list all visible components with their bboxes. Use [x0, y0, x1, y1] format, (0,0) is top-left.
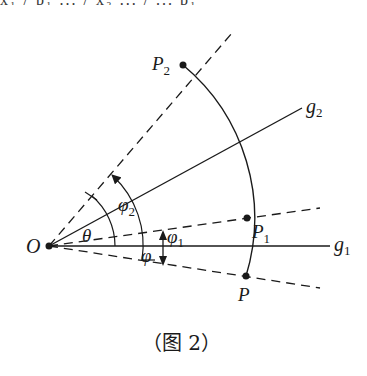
figure-caption: （图 2）	[142, 331, 221, 355]
label-phi: φ	[141, 245, 152, 266]
label-P: P	[237, 284, 250, 305]
label-theta: θ	[82, 225, 91, 246]
label-O: O	[26, 235, 40, 257]
point-P	[243, 273, 250, 280]
label-g2: g2	[306, 95, 323, 120]
phi-arrow-up-icon	[159, 230, 167, 240]
dashed-ray-p2	[49, 33, 232, 246]
theta-arc-tick	[85, 192, 97, 200]
label-phi2: φ2	[118, 194, 135, 219]
dashed-ray-p	[49, 246, 320, 288]
label-g1: g1	[334, 233, 351, 258]
label-phi1: φ1	[167, 226, 184, 250]
point-P2	[180, 62, 187, 69]
point-O	[46, 243, 53, 250]
arc-p-p2	[183, 65, 255, 276]
geometry-diagram: O θ φ φ1 φ2 P2 P1 P g1 g2 （图 2）	[0, 0, 367, 376]
point-P1	[244, 215, 251, 222]
phi-arrow-down-icon	[159, 256, 167, 266]
label-P2: P2	[151, 53, 170, 78]
